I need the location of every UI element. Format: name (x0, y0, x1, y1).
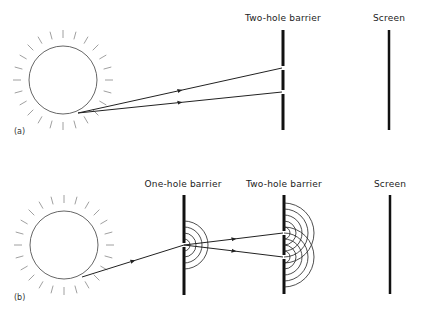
panel-tag-a: (a) (14, 127, 25, 136)
screen-label-a: Screen (373, 13, 405, 23)
screen-label-b: Screen (374, 179, 406, 189)
light-rays-b-middle (184, 233, 283, 257)
panel-tag-b: (b) (14, 293, 25, 302)
one-hole-barrier-label-b: One-hole barrier (144, 179, 221, 189)
two-hole-barrier-b (284, 195, 314, 294)
sun-b-icon (14, 195, 114, 295)
double-slit-diagram: Two-hole barrier Screen (a) One-hole bar… (0, 0, 425, 319)
two-hole-barrier-label-a: Two-hole barrier (245, 13, 321, 23)
panel-a (13, 30, 389, 130)
sun-a-icon (13, 30, 113, 130)
panel-b (14, 195, 390, 295)
two-hole-barrier-label-b: Two-hole barrier (246, 179, 322, 189)
diagram-canvas (0, 0, 425, 319)
light-rays-a (78, 68, 282, 113)
